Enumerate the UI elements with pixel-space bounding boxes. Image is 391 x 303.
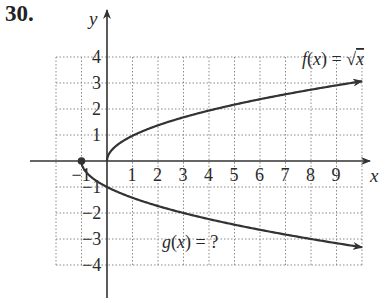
- x-tick-label: 5: [230, 165, 239, 185]
- y-tick-label: 2: [92, 99, 101, 119]
- y-tick-label: −2: [82, 203, 101, 223]
- x-tick-label: 2: [153, 165, 162, 185]
- x-tick-label: 3: [179, 165, 188, 185]
- y-tick-label: 1: [92, 125, 101, 145]
- function-labels: f(x) = √x g(x) = ?: [162, 49, 364, 253]
- x-tick-label: 9: [332, 165, 341, 185]
- f-label: f(x) = √x: [302, 49, 364, 70]
- y-tick-label: −3: [82, 229, 101, 249]
- x-tick-label: 1: [128, 165, 137, 185]
- y-tick-label: 3: [92, 73, 101, 93]
- y-axis-label: y: [87, 8, 98, 29]
- x-axis-label: x: [369, 165, 379, 186]
- problem-number: 30.: [5, 1, 34, 27]
- graph-figure: 30. x y −11234567894321−1−2−3−4 f(x) = √…: [0, 0, 391, 303]
- g-curve: [82, 161, 363, 247]
- coordinate-plane: x y −11234567894321−1−2−3−4 f(x) = √x g(…: [0, 0, 391, 303]
- y-tick-label: −1: [82, 177, 101, 197]
- x-tick-label: 7: [281, 165, 290, 185]
- x-tick-label: 6: [255, 165, 264, 185]
- g-label: g(x) = ?: [162, 232, 218, 253]
- curves: [78, 81, 362, 247]
- y-tick-label: −4: [82, 255, 101, 275]
- g-start-point: [78, 157, 86, 165]
- x-tick-label: 4: [204, 165, 213, 185]
- x-tick-label: 8: [306, 165, 315, 185]
- y-tick-label: 4: [92, 47, 101, 67]
